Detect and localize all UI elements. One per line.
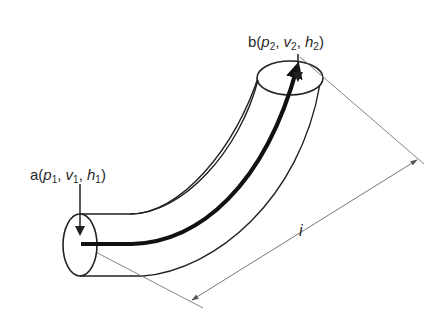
paren-close: ) bbox=[101, 166, 106, 183]
sep: , bbox=[79, 166, 87, 183]
label-point-b: b(p2, v2, h2) bbox=[248, 33, 324, 56]
sep: , bbox=[297, 33, 305, 50]
pipe-diagram bbox=[0, 0, 442, 326]
var-p2: p bbox=[261, 33, 269, 50]
var-v2: v bbox=[284, 33, 292, 50]
length-label: i bbox=[299, 222, 303, 240]
flow-arrow bbox=[81, 68, 297, 244]
var-v1: v bbox=[66, 166, 74, 183]
dimension-extension-b bbox=[300, 57, 424, 164]
sep: , bbox=[57, 166, 65, 183]
var-p1: p bbox=[43, 166, 51, 183]
dimension-line bbox=[192, 160, 417, 300]
label-point-a: a(p1, v1, h1) bbox=[30, 166, 106, 189]
paren-close: ) bbox=[319, 33, 324, 50]
sep: , bbox=[275, 33, 283, 50]
dimension-extension-a bbox=[84, 246, 203, 308]
